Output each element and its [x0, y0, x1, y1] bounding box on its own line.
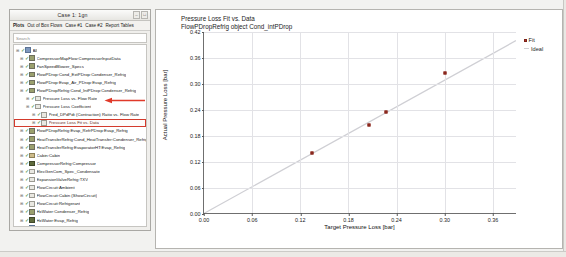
x-axis-tick: 0.18 — [343, 213, 354, 223]
grid-line-vertical — [300, 32, 301, 213]
grid-line-vertical — [397, 32, 398, 213]
search-input[interactable]: Search — [13, 33, 147, 43]
grid-line-horizontal — [204, 136, 516, 137]
plot-canvas[interactable]: 0.000.060.120.180.240.300.360.000.060.12… — [203, 32, 516, 214]
tree-row-label: HeatTransferRefrig:EvaporatorHT:Evap_Ref… — [37, 145, 126, 150]
tree-row-label: Pressure Loss Coefficient — [43, 104, 92, 109]
minimize-button[interactable]: – — [133, 11, 140, 19]
tree-row-label: PntIntegratorRefrig:PntIntegratorRefrig — [37, 226, 111, 227]
plot-title: Pressure Loss Fit vs. Data — [181, 15, 292, 23]
doc-icon — [29, 169, 35, 175]
tree-row-label: Pressure Loss vs. Flow Rate — [43, 96, 98, 101]
tree-row[interactable]: ⊞✓PntIntegratorRefrig:PntIntegratorRefri… — [14, 224, 146, 227]
doc-icon — [35, 104, 41, 110]
tree-row-label: Cabin:Cabin — [37, 153, 61, 158]
x-axis-tick: 0.24 — [391, 213, 402, 223]
tree-row[interactable]: ⊞✓FlowCircuit:Cabin (ShowCircuit) — [14, 192, 146, 200]
plot-panel: Pressure Loss Fit vs. Data FlowPDropRefr… — [155, 9, 563, 249]
green-icon — [29, 55, 35, 61]
grid-line-horizontal — [204, 162, 516, 163]
tree-row-label: FlowPDrop:Evap_Air_PDrop:Evap_Refrig — [37, 80, 116, 85]
tree-row[interactable]: ⊞✓HeatTransferRefrig:Cond_HeatTransfer:C… — [14, 135, 146, 143]
tree-row[interactable]: ⊞✓Pred_DPdPdt (Contraction) Ratio vs. Fl… — [14, 111, 146, 119]
doc-icon — [29, 201, 35, 207]
doc-icon — [41, 112, 47, 118]
tree-row-label: Pressure Loss Fit vs. Data — [49, 120, 99, 125]
tree-row[interactable]: ⊞✓FlowPDropRefrig:Cond_IntPDrop:Condense… — [14, 86, 146, 94]
y-axis-tick: 0.18 — [190, 133, 204, 139]
menu-item-report-tables[interactable]: Report Tables — [105, 23, 133, 28]
tree-row-label: CompressorMapFlow:CompressorInputData — [37, 56, 121, 61]
tree-row[interactable]: ⊞✓FlowPDropRefrig:Evap_RefrPDrop:Evap_Re… — [14, 127, 146, 135]
grid-line-horizontal — [204, 84, 516, 85]
tree-row[interactable]: ⊞✓CompressorMapFlow:CompressorInputData — [14, 54, 146, 62]
green-icon — [29, 136, 35, 142]
y-axis-tick: 0.06 — [190, 185, 204, 191]
grid-line-vertical — [348, 32, 349, 213]
tree-row[interactable]: ⊞✓FlowPDrop:Cond_ExtPDrop:Condenser_Refr… — [14, 70, 146, 78]
data-point[interactable] — [311, 151, 314, 154]
tree-row[interactable]: ⊞✓HxWater:Condenser_Refrig — [14, 208, 146, 216]
tree-row-selected[interactable]: ⊞✓Pressure Loss Fit vs. Data — [14, 119, 146, 127]
window-title: Case 1: 1gn — [12, 12, 133, 18]
grid-line-horizontal — [204, 110, 516, 111]
x-axis-tick: 0.06 — [247, 213, 258, 223]
doc-icon — [35, 96, 41, 102]
blue-icon — [29, 225, 35, 227]
tree-row-label: HeatTransferRefrig:Cond_HeatTransfer:Con… — [37, 137, 147, 142]
tree-row[interactable]: ⊞✓HeatTransferRefrig:EvaporatorHT:Evap_R… — [14, 143, 146, 151]
legend-entry-ideal: Ideal — [524, 45, 543, 54]
window-controls[interactable]: – □ — [133, 11, 148, 19]
menu-item-plots[interactable]: Plots — [13, 23, 24, 28]
tree-row[interactable]: ⊞✓Pressure Loss vs. Flow Rate — [14, 95, 146, 103]
menu-item-case-1[interactable]: Case #1 — [65, 23, 82, 28]
data-point[interactable] — [443, 71, 446, 74]
tree-row-label: Pred_DPdPdt (Contraction) Ratio vs. Flow… — [49, 112, 140, 117]
plot-legend: Fit Ideal — [524, 36, 543, 53]
tree-row-label: FlowPDropRefrig:Evap_RefrPDrop:Evap_Refr… — [37, 128, 128, 133]
menu-item-case-2[interactable]: Case #2 — [85, 23, 102, 28]
grid-line-horizontal — [204, 58, 516, 59]
y-axis-tick: 0.12 — [190, 159, 204, 165]
x-axis-tick: 0.12 — [295, 213, 306, 223]
tree-row[interactable]: ⊞✓FanSpeedBlower_Specs — [14, 62, 146, 70]
data-point[interactable] — [385, 111, 388, 114]
tree-row[interactable]: ⊞✓ExpansionValveRefrig:TXV — [14, 176, 146, 184]
grid-line-horizontal — [204, 188, 516, 189]
legend-label-fit: Fit — [529, 36, 535, 45]
green-icon — [29, 144, 35, 150]
tree-row[interactable]: ⊞✓FlowCircuit:Ambient — [14, 184, 146, 192]
tree-row[interactable]: ⊞✓Pressure Loss Coefficient — [14, 103, 146, 111]
tree-row[interactable]: ⊞✓FlowPDrop:Evap_Air_PDrop:Evap_Refrig — [14, 78, 146, 86]
maximize-button[interactable]: □ — [141, 11, 148, 19]
doc-icon — [29, 177, 35, 183]
doc-icon — [29, 193, 35, 199]
tree-row[interactable]: ⊞✓All — [14, 46, 146, 54]
tree-row[interactable]: ⊞✓FlowCircuit:Refrigerant — [14, 200, 146, 208]
legend-label-ideal: Ideal — [531, 45, 543, 54]
tree-row[interactable]: ⊞✓CompressorRefrig:Compressor — [14, 159, 146, 167]
tree-row-label: HxWater:Condenser_Refrig — [37, 209, 90, 214]
dark-icon — [29, 161, 35, 167]
tree-row-label: ElecGenCom_Spec_Condensate — [37, 169, 100, 174]
tree-row-label: HxWater:Evap_Refrig — [37, 218, 78, 223]
y-axis-tick: 0.42 — [190, 29, 204, 35]
tree-row[interactable]: ⊞✓HxWater:Evap_Refrig — [14, 216, 146, 224]
tree-row-label: CompressorRefrig:Compressor — [37, 161, 96, 166]
menu-item-out-of-box-flows[interactable]: Out of Box Flows — [27, 23, 62, 28]
green-icon — [29, 128, 35, 134]
window-titlebar[interactable]: Case 1: 1gn – □ — [10, 10, 150, 21]
data-point[interactable] — [367, 124, 370, 127]
bottom-edge-bar — [0, 251, 566, 257]
tree-row-label: FlowCircuit:Refrigerant — [37, 201, 81, 206]
x-axis-label: Target Pressure Loss [bar] — [203, 224, 516, 230]
grid-line-vertical — [252, 32, 253, 213]
menu-bar[interactable]: Plots Out of Box Flows Case #1 Case #2 R… — [10, 21, 150, 31]
grid-line-horizontal — [204, 32, 516, 33]
tree-row[interactable]: ⊞✓Cabin:Cabin — [14, 151, 146, 159]
tree-row[interactable]: ⊞✓ElecGenCom_Spec_Condensate — [14, 167, 146, 175]
y-axis-tick: 0.00 — [190, 211, 204, 217]
object-tree[interactable]: ⊞✓All⊞✓CompressorMapFlow:CompressorInput… — [13, 44, 147, 227]
dark-icon — [29, 217, 35, 223]
y-axis-tick: 0.36 — [190, 55, 204, 61]
